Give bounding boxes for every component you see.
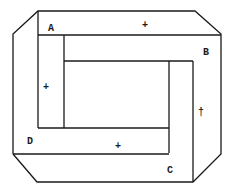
- plus-marker-bottom: +: [115, 141, 121, 152]
- impossible-frame-diagram: A B C D + + † +: [0, 0, 233, 193]
- outer-frame-line: [13, 11, 221, 182]
- label-d: D: [27, 136, 33, 147]
- label-b: B: [203, 47, 209, 58]
- plus-marker-top: +: [142, 20, 148, 31]
- plus-marker-left: +: [43, 82, 49, 93]
- label-c: C: [167, 165, 173, 176]
- plus-marker-right: †: [198, 107, 204, 118]
- inner-lines: [13, 61, 193, 182]
- outer-outline: [13, 11, 221, 182]
- label-a: A: [48, 23, 54, 34]
